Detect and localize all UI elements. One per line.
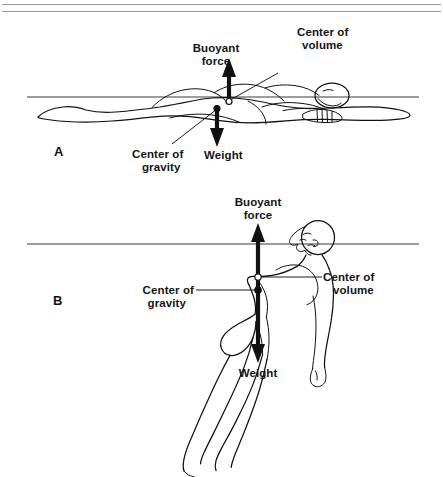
buoyancy-diagram: Buoyant force Center of volume Center of… bbox=[0, 0, 443, 477]
weight-label-a: Weight bbox=[204, 149, 243, 161]
panel-b: Buoyant force Center of volume Center of… bbox=[27, 196, 419, 477]
center-of-volume-marker-b bbox=[255, 274, 261, 280]
center-of-volume-label-a-line2: volume bbox=[302, 39, 343, 51]
weight-arrow-a bbox=[210, 110, 224, 147]
center-of-gravity-label-a-line1: Center of bbox=[132, 148, 183, 160]
buoyant-force-label-a-line1: Buoyant bbox=[193, 42, 240, 54]
center-of-volume-label-a-line1: Center of bbox=[297, 26, 348, 38]
figure-container: Buoyant force Center of volume Center of… bbox=[0, 0, 443, 477]
hand-a bbox=[303, 109, 342, 122]
center-of-gravity-label-a-line2: gravity bbox=[142, 161, 181, 173]
panel-a: Buoyant force Center of volume Center of… bbox=[27, 26, 419, 173]
header-rules bbox=[2, 5, 441, 12]
center-of-volume-label-b-line2: volume bbox=[333, 284, 374, 296]
head-b bbox=[302, 221, 335, 255]
buoyant-force-label-b-line1: Buoyant bbox=[235, 196, 282, 208]
center-of-gravity-marker-b bbox=[255, 287, 261, 293]
center-of-gravity-marker-a bbox=[214, 106, 220, 112]
buoyant-force-label-b-line2: force bbox=[244, 209, 273, 221]
panel-letter-b: B bbox=[53, 293, 62, 308]
buoyant-arrowhead-b bbox=[251, 223, 265, 242]
head-a bbox=[315, 83, 349, 108]
center-of-volume-marker-a bbox=[226, 99, 232, 105]
weight-label-b: Weight bbox=[239, 367, 278, 379]
buoyant-force-label-a-line2: force bbox=[202, 55, 231, 67]
panel-letter-a: A bbox=[54, 144, 64, 159]
swimmer-body-a bbox=[38, 83, 410, 124]
center-of-volume-label-b-line1: Center of bbox=[323, 271, 374, 283]
center-of-gravity-label-b-line1: Center of bbox=[143, 284, 194, 296]
center-of-gravity-label-b-line2: gravity bbox=[148, 297, 187, 309]
